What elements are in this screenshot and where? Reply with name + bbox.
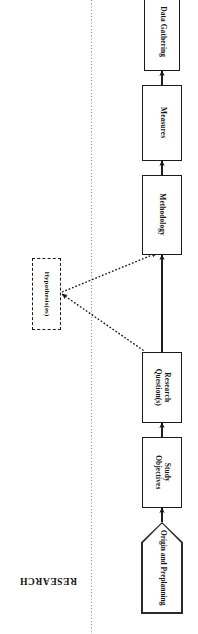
figure-stage: Origin and Preplanning Study Objectives …	[0, 0, 198, 634]
node-study-objectives[interactable]: Study Objectives	[142, 437, 182, 508]
node-data-gathering-label: Data Gathering	[158, 7, 167, 58]
edge-hypotheses-to-methodology	[62, 253, 157, 292]
node-questions-label: Research Question(s)	[153, 369, 170, 406]
edge-questions-to-hypotheses	[62, 294, 144, 351]
node-origin-label: Origin and Preplanning	[158, 530, 167, 605]
node-objectives-label: Study Objectives	[153, 455, 170, 489]
node-measures[interactable]: Measures	[142, 85, 182, 161]
node-methodology[interactable]: Methodology	[142, 175, 182, 255]
node-objectives-label-line1: Study	[163, 463, 172, 482]
node-hypotheses-label: Hypothesis(es)	[42, 272, 50, 317]
band-label-research: RESEARCH	[19, 576, 77, 586]
node-objectives-label-line2: Objectives	[154, 455, 163, 489]
node-questions-label-line1: Research	[163, 373, 172, 403]
node-research-questions[interactable]: Research Question(s)	[142, 352, 182, 423]
node-measures-label: Measures	[158, 107, 167, 138]
node-data-gathering[interactable]: Data Gathering	[145, 0, 181, 71]
node-methodology-label: Methodology	[158, 194, 167, 237]
node-questions-label-line2: Question(s)	[154, 369, 163, 406]
node-hypotheses[interactable]: Hypothesis(es)	[32, 258, 61, 330]
